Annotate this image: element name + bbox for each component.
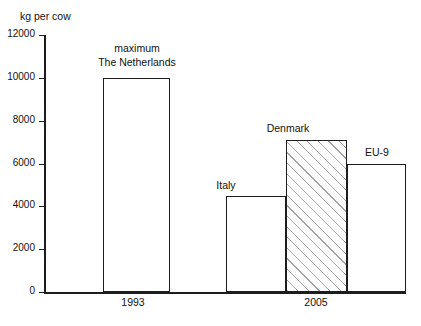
bar-label-eu-9-line2: EU-9 bbox=[347, 145, 407, 159]
bar-italy[interactable] bbox=[226, 196, 286, 292]
bar-label-the-netherlands-line2: The Netherlands bbox=[82, 55, 192, 69]
bar-label-denmark: Denmark bbox=[253, 121, 323, 135]
y-axis-line bbox=[44, 35, 46, 292]
bar-eu-9[interactable] bbox=[347, 164, 406, 293]
bar-label-eu-9: EU-9 bbox=[347, 145, 407, 159]
bar-label-italy: Italy bbox=[196, 178, 256, 192]
y-tick-label-6000: 6000 bbox=[13, 157, 35, 169]
plot-area: 12000 10000 8000 6000 4000 2000 0 bbox=[44, 35, 406, 292]
y-tick-0: 0 bbox=[39, 292, 44, 293]
y-tick-label-2000: 2000 bbox=[13, 242, 35, 254]
bar-the-netherlands[interactable] bbox=[103, 78, 170, 292]
bar-denmark[interactable] bbox=[286, 140, 347, 292]
y-tick-label-4000: 4000 bbox=[13, 199, 35, 211]
y-tick-8000: 8000 bbox=[39, 121, 44, 122]
y-tick-label-12000: 12000 bbox=[7, 28, 35, 40]
bar-label-the-netherlands: maximum The Netherlands bbox=[82, 41, 192, 69]
y-tick-label-10000: 10000 bbox=[7, 71, 35, 83]
x-axis-line bbox=[44, 292, 406, 294]
y-tick-4000: 4000 bbox=[39, 206, 44, 207]
y-tick-label-8000: 8000 bbox=[13, 114, 35, 126]
y-tick-label-0: 0 bbox=[29, 285, 35, 297]
y-tick-6000: 6000 bbox=[39, 164, 44, 165]
y-tick-2000: 2000 bbox=[39, 249, 44, 250]
bar-label-italy-line2: Italy bbox=[196, 178, 256, 192]
group-label-1993: 1993 bbox=[73, 296, 193, 308]
y-tick-10000: 10000 bbox=[39, 78, 44, 79]
bar-label-denmark-line2: Denmark bbox=[253, 121, 323, 135]
bar-label-the-netherlands-line1: maximum bbox=[82, 41, 192, 55]
y-tick-12000: 12000 bbox=[39, 35, 44, 36]
y-axis-title: kg per cow bbox=[20, 10, 71, 22]
group-label-2005: 2005 bbox=[256, 296, 376, 308]
bar-chart: kg per cow 12000 10000 8000 6000 4000 20… bbox=[0, 0, 421, 326]
